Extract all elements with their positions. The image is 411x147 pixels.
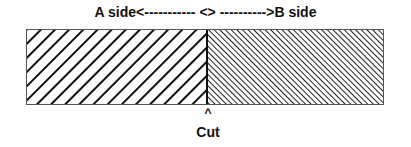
b-side-region [207, 29, 384, 105]
caret-marker-icon: ^ [200, 106, 216, 120]
cut-label: Cut [188, 124, 228, 140]
diagram-title: A side<----------- <> ---------->B side [0, 4, 411, 20]
a-side-region [26, 29, 207, 105]
hatched-rectangle [26, 29, 384, 105]
cut-diagram [26, 29, 384, 105]
